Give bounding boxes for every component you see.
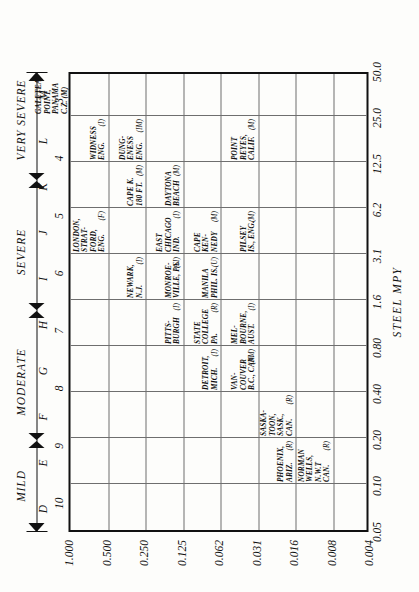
site-name: CAPE KEN- NEDY <box>193 231 218 252</box>
site-code: (RM) <box>247 349 255 365</box>
x-tick-8: 12.5 <box>370 154 382 174</box>
x-tick-2: 0.20 <box>370 430 382 450</box>
number-tick-4: 4 <box>52 155 64 161</box>
letter-tick-F: F <box>36 413 48 420</box>
site-name: LONDON, STRAT- FORD, ENG. <box>72 218 106 252</box>
site-name: PHOENIX, ARIZ. <box>276 446 293 482</box>
site-code: (R) <box>210 303 218 312</box>
letter-tick-G: G <box>36 367 48 375</box>
site-code: (I) <box>97 119 105 126</box>
site-cell: MONROE- VILLE, PA.(SI) <box>145 254 183 300</box>
letter-tick-E: E <box>36 459 48 466</box>
x-tick-10: 50.0 <box>370 62 382 82</box>
number-tick-5: 5 <box>52 213 64 219</box>
site-cell: CAPE KEN- NEDY(M) <box>183 208 221 254</box>
site-code: (R) <box>285 395 293 404</box>
site-cell: CAPE K. 180 FT.(M) <box>108 162 146 208</box>
site-code: (R) <box>285 441 293 450</box>
x-tick-5: 1.6 <box>370 295 382 309</box>
x-axis-title: STEEL MPY <box>390 72 402 532</box>
site-code: (I) <box>210 349 218 356</box>
site-code: (M) <box>210 211 218 222</box>
site-cell: NORMAN WELLS, N.W.T CAN.(R) <box>295 438 333 484</box>
site-cell: VAN- COUVER B.C., CAN.(RM) <box>220 346 258 392</box>
site-name: MANILA PHIL. IS. <box>201 267 218 298</box>
site-code: (I) <box>247 303 255 310</box>
letter-scale: DEFGHIJKLM <box>36 72 52 532</box>
y-tick-5: 0.031 <box>250 540 262 566</box>
number-tick-6: 6 <box>52 270 64 276</box>
y-tick-0: 1.000 <box>62 540 74 566</box>
site-code: (R) <box>322 441 330 450</box>
y-tick-3: 0.125 <box>175 540 187 566</box>
site-name: NEWARK, N.J. <box>126 264 143 298</box>
x-tick-6: 3.1 <box>370 249 382 263</box>
number-tick-9: 9 <box>52 443 64 449</box>
site-code: (IM) <box>135 119 143 133</box>
site-cell: SASKA- TOON, SASK., CAN.(R) <box>258 392 296 438</box>
y-tick-8: 0.004 <box>362 540 374 566</box>
site-code: (M) <box>247 119 255 130</box>
site-code: (F) <box>97 211 105 220</box>
letter-tick-D: D <box>36 505 48 513</box>
y-tick-4: 0.062 <box>212 540 224 566</box>
severity-label-moderate: MODERATE <box>14 344 26 419</box>
x-tick-9: 25.0 <box>370 108 382 128</box>
rotated-figure: MILD MODERATE SEVERE VERY SEVERE DEFGHIJ… <box>0 0 419 592</box>
site-name: EAST CHICAGO IND. <box>155 217 180 252</box>
site-name: DETROIT, MICH. <box>201 356 218 390</box>
y-tick-7: 0.008 <box>325 540 337 566</box>
site-name: DAYTONA BEACH <box>164 171 181 206</box>
site-name: MEL- BOURNE, AUST. <box>230 311 255 344</box>
site-cell: NEWARK, N.J.(I) <box>108 254 146 300</box>
letter-tick-L: L <box>36 138 48 144</box>
site-name: PILSEY IS., ENG. <box>239 221 256 252</box>
letter-tick-J: J <box>36 230 48 235</box>
severity-label-very-severe: VERY SEVERE <box>14 76 26 165</box>
site-code: (I) <box>172 303 180 310</box>
y-axis-ticks: 1.0000.5000.2500.1250.0620.0310.0160.008… <box>68 534 368 592</box>
y-tick-2: 0.250 <box>137 540 149 566</box>
site-cell: PHOENIX, ARIZ.(R) <box>258 438 296 484</box>
site-cell: EAST CHICAGO IND.(I) <box>145 208 183 254</box>
site-name: DUNG- ENESS ENG. <box>118 136 143 160</box>
site-name: STATE COLLEGE PA. <box>193 309 218 344</box>
site-cell: PITTS- BURGH(I) <box>145 300 183 346</box>
severity-label-mild: MILD <box>14 466 26 506</box>
site-code: (M) <box>247 211 255 222</box>
y-tick-6: 0.016 <box>287 540 299 566</box>
y-tick-1: 0.500 <box>100 540 112 566</box>
x-tick-4: 0.80 <box>370 338 382 358</box>
site-cell: DUNG- ENESS ENG.(IM) <box>108 116 146 162</box>
plot-grid: GALETEA POINT, PANAMA C.Z. (M)WIDNESS EN… <box>68 72 368 532</box>
site-name: CAPE K. 180 FT. <box>126 177 143 206</box>
number-tick-10: 10 <box>52 498 64 510</box>
site-cell: DETROIT, MICH.(I) <box>183 346 221 392</box>
severity-label-severe: SEVERE <box>14 225 26 279</box>
x-tick-1: 0.10 <box>370 476 382 496</box>
letter-tick-H: H <box>36 321 48 329</box>
site-cell: WIDNESS ENG.(I) <box>70 116 108 162</box>
letter-tick-K: K <box>36 183 48 191</box>
site-name: PITTS- BURGH <box>164 317 181 344</box>
x-tick-7: 6.2 <box>370 203 382 217</box>
site-code: (U) <box>210 257 218 267</box>
x-axis-ticks: 0.050.100.200.400.801.63.16.212.525.050.… <box>370 72 386 532</box>
site-name: POINT REYES, CALIF. <box>230 134 255 160</box>
site-name: SASKA- TOON, SASK., CAN. <box>259 410 293 436</box>
site-cell: LONDON, STRAT- FORD, ENG.(F) <box>70 208 108 254</box>
number-scale: 109876543 <box>52 72 68 532</box>
site-cell: MEL- BOURNE, AUST.(I) <box>220 300 258 346</box>
letter-tick-I: I <box>36 277 48 281</box>
number-tick-7: 7 <box>52 328 64 334</box>
site-name: NORMAN WELLS, N.W.T CAN. <box>297 449 331 482</box>
site-code: (SI) <box>172 257 180 268</box>
site-cell: GALETEA POINT, PANAMA C.Z. (M) <box>33 70 71 116</box>
site-code: (I) <box>135 257 143 264</box>
x-tick-3: 0.40 <box>370 384 382 404</box>
number-tick-8: 8 <box>52 385 64 391</box>
corrosivity-chart: MILD MODERATE SEVERE VERY SEVERE DEFGHIJ… <box>0 0 419 592</box>
site-cell: DAYTONA BEACH(M) <box>145 162 183 208</box>
site-cell: PILSEY IS., ENG.(M) <box>220 208 258 254</box>
site-cell: STATE COLLEGE PA.(R) <box>183 300 221 346</box>
